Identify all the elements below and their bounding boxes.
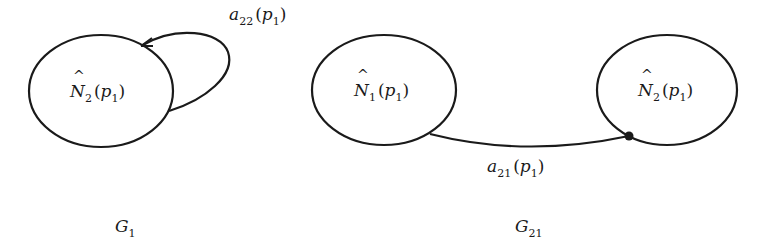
graph-g21: ^ N1(p1) ^ N2(p1) a21(p1) G21 bbox=[312, 35, 737, 240]
g21-edge-label: a21(p1) bbox=[487, 156, 544, 180]
g21-node-n1[interactable]: ^ N1(p1) bbox=[312, 35, 456, 145]
g1-node-n2[interactable]: ^ N2(p1) bbox=[29, 35, 173, 147]
arrowhead-icon bbox=[141, 38, 153, 46]
diagram-canvas: ^ N2(p1) a22(p1) G1 ^ N1(p1) bbox=[0, 0, 764, 246]
edge-endpoint-dot-icon bbox=[625, 132, 634, 141]
g1-node-n2-label: N2(p1) bbox=[69, 81, 125, 105]
g1-edge-label: a22(p1) bbox=[229, 4, 286, 28]
g21-edge-path bbox=[430, 134, 629, 147]
graph-g1: ^ N2(p1) a22(p1) G1 bbox=[29, 4, 286, 240]
g21-node-n1-label: N1(p1) bbox=[353, 80, 409, 104]
g1-self-loop-path bbox=[143, 33, 229, 111]
g1-edge-self-loop[interactable]: a22(p1) bbox=[141, 4, 286, 111]
g1-caption: G1 bbox=[115, 216, 136, 240]
g21-caption: G21 bbox=[515, 216, 543, 240]
g21-edge-n1-n2[interactable]: a21(p1) bbox=[430, 132, 634, 181]
g21-node-n2[interactable]: ^ N2(p1) bbox=[597, 35, 737, 145]
g21-node-n2-label: N2(p1) bbox=[637, 80, 693, 104]
